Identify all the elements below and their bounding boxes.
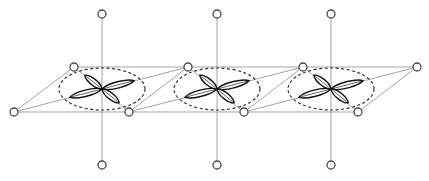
atom-plane-lower-2 xyxy=(125,108,133,116)
orbital-lobes xyxy=(69,73,363,106)
atom-apical-bottom-3 xyxy=(327,161,335,169)
plane-diagonal-edge-2 xyxy=(129,67,188,112)
atom-plane-end-2 xyxy=(354,108,362,116)
atom-plane-end-1 xyxy=(413,63,421,71)
atom-apical-bottom-1 xyxy=(98,161,106,169)
plane-diagonal-edge-1 xyxy=(14,67,74,112)
atom-apical-bottom-2 xyxy=(213,161,221,169)
atom-plane-lower-3 xyxy=(240,108,248,116)
plane-diagonal-edge-end xyxy=(358,67,417,112)
atom-plane-upper-2 xyxy=(184,63,192,71)
atom-apical-top-1 xyxy=(98,10,106,18)
atom-plane-upper-3 xyxy=(299,63,307,71)
atom-plane-lower-1 xyxy=(10,108,18,116)
orbital-chain-diagram xyxy=(0,0,429,181)
plane-diagonal-edge-3 xyxy=(244,67,303,112)
atom-plane-upper-1 xyxy=(70,63,78,71)
atom-apical-top-2 xyxy=(213,10,221,18)
atom-apical-top-3 xyxy=(327,10,335,18)
